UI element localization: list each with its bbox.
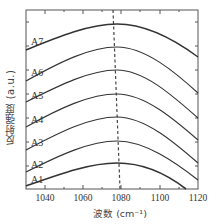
- x-ticks: [45, 10, 179, 189]
- xtick-1080: 1080: [112, 193, 131, 203]
- xtick-1100: 1100: [151, 193, 170, 203]
- curve-a7: [26, 24, 198, 57]
- label-a2: A2: [31, 159, 43, 170]
- chart-canvas: A7 A6 A5 A4 A3 A2 A1 1040 1060 1080 1100…: [0, 0, 217, 224]
- x-tick-labels: 1040 1060 1080 1100 1120: [36, 193, 208, 203]
- xtick-1060: 1060: [74, 193, 93, 203]
- curve-a1: [26, 163, 186, 189]
- x-axis-label: 波数 (cm⁻¹): [80, 206, 160, 220]
- curve-a2: [26, 141, 198, 180]
- label-a3: A3: [31, 137, 43, 148]
- spectrum-curves: [26, 24, 198, 189]
- label-a6: A6: [31, 67, 43, 78]
- y-axis-label: 反射强度 (a.u.): [3, 52, 17, 162]
- peak-reference-line: [113, 10, 120, 189]
- label-a5: A5: [31, 90, 43, 101]
- plot-frame: [26, 10, 198, 189]
- label-a4: A4: [31, 114, 43, 125]
- series-labels: A7 A6 A5 A4 A3 A2 A1: [31, 36, 43, 185]
- xtick-1120: 1120: [189, 193, 208, 203]
- label-a1: A1: [31, 174, 43, 185]
- curve-a3: [26, 117, 198, 163]
- xtick-1040: 1040: [36, 193, 55, 203]
- reflectance-spectrum-chart: A7 A6 A5 A4 A3 A2 A1 1040 1060 1080 1100…: [0, 0, 217, 224]
- label-a7: A7: [31, 36, 43, 47]
